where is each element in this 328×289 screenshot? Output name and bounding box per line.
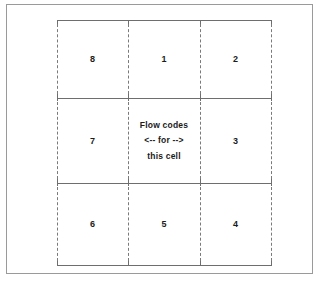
grid-cell-label: 5 bbox=[161, 219, 166, 229]
grid-cell-4: 4 bbox=[200, 183, 271, 265]
grid-cell-7: 7 bbox=[57, 98, 128, 183]
center-cell-line-2: <-- for --> bbox=[144, 136, 184, 145]
grid-hline-bottom bbox=[57, 265, 272, 266]
center-cell-line-3: this cell bbox=[147, 152, 180, 161]
grid-tick-d1-3 bbox=[271, 94, 272, 101]
grid-cell-3: 3 bbox=[200, 98, 271, 183]
grid-cell-label: 7 bbox=[90, 136, 95, 146]
grid-vline-a-3 bbox=[271, 24, 272, 94]
grid-cell-center: Flow codes <-- for --> this cell bbox=[128, 98, 200, 183]
grid-cell-1: 1 bbox=[128, 20, 200, 98]
grid-cell-8: 8 bbox=[57, 20, 128, 98]
grid-vline-c-3 bbox=[271, 187, 272, 261]
grid-tick-d2-3 bbox=[271, 179, 272, 186]
grid-cell-2: 2 bbox=[200, 20, 271, 98]
flow-code-grid: 8 1 2 7 Flow codes <-- for --> this cell… bbox=[57, 20, 272, 265]
center-cell-line-1: Flow codes bbox=[140, 121, 188, 130]
grid-vline-b-3 bbox=[271, 102, 272, 179]
grid-cell-label: 1 bbox=[161, 54, 166, 64]
grid-cell-label: 2 bbox=[233, 54, 238, 64]
grid-cell-label: 8 bbox=[90, 54, 95, 64]
grid-cell-label: 6 bbox=[90, 219, 95, 229]
figure-root: 8 1 2 7 Flow codes <-- for --> this cell… bbox=[0, 0, 328, 289]
grid-cell-6: 6 bbox=[57, 183, 128, 265]
grid-cell-5: 5 bbox=[128, 183, 200, 265]
grid-cell-label: 3 bbox=[233, 136, 238, 146]
grid-cell-label: 4 bbox=[233, 219, 238, 229]
